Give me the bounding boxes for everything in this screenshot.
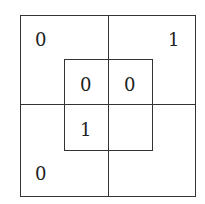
inner-top-left-value: 0 — [80, 76, 91, 94]
inner-bottom-left-value: 1 — [80, 121, 91, 139]
inner-square — [64, 59, 153, 151]
outer-top-right-value: 1 — [168, 31, 179, 49]
outer-bottom-left-value: 0 — [35, 165, 46, 183]
inner-top-right-value: 0 — [124, 76, 135, 94]
outer-top-left-value: 0 — [35, 31, 46, 49]
